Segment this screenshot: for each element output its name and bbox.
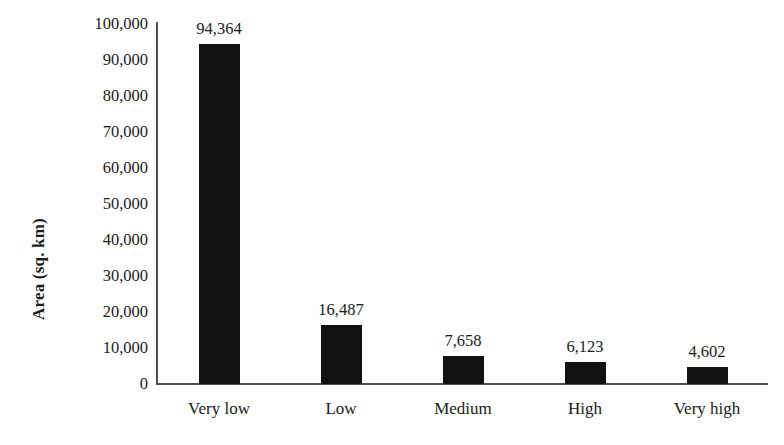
y-axis-tick-label: 10,000 — [48, 340, 148, 357]
y-axis-tick-label: 100,000 — [48, 16, 148, 33]
y-axis-tick-label: 70,000 — [48, 124, 148, 141]
y-axis-tick-label: 80,000 — [48, 88, 148, 105]
bar — [199, 44, 240, 384]
x-axis-tick-label: Very low — [149, 400, 289, 417]
bar-value-label: 94,364 — [164, 21, 274, 38]
y-axis-tick-label: 30,000 — [48, 268, 148, 285]
bar-value-label: 16,487 — [286, 302, 396, 319]
bar — [321, 325, 362, 384]
bar-value-label: 6,123 — [530, 339, 640, 356]
x-axis-tick-label: High — [515, 400, 655, 417]
bar-chart: Area (sq. km) 010,00020,00030,00040,0005… — [0, 0, 784, 445]
y-axis-tick-label: 90,000 — [48, 52, 148, 69]
bar — [565, 362, 606, 384]
bar-value-label: 4,602 — [652, 344, 762, 361]
y-axis-tick-label: 50,000 — [48, 196, 148, 213]
y-axis-tick-labels: 010,00020,00030,00040,00050,00060,00070,… — [48, 0, 148, 445]
y-axis-tick-label: 40,000 — [48, 232, 148, 249]
x-axis-tick-label: Very high — [637, 400, 777, 417]
x-axis-tick-label: Low — [271, 400, 411, 417]
y-axis-tick-label: 60,000 — [48, 160, 148, 177]
x-axis-tick-labels: Very lowLowMediumHighVery high — [158, 400, 768, 430]
y-axis-tick-label: 20,000 — [48, 304, 148, 321]
y-axis-tick-label: 0 — [48, 376, 148, 393]
x-axis-tick-label: Medium — [393, 400, 533, 417]
bar — [443, 356, 484, 384]
bar-value-label: 7,658 — [408, 333, 518, 350]
bar — [687, 367, 728, 384]
plot-area — [158, 24, 768, 384]
